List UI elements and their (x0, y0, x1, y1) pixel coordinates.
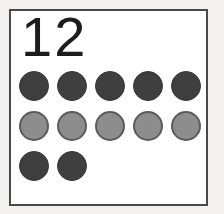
dot-circle (57, 151, 87, 181)
dot-circle (19, 71, 49, 101)
numeral-label: 12 (21, 9, 87, 65)
dot-circle (95, 111, 125, 141)
dot-circle (57, 71, 87, 101)
dot-circle (19, 151, 49, 181)
dot-circle (171, 111, 201, 141)
dot-row (19, 111, 205, 149)
dot-circle (133, 111, 163, 141)
dot-circle (19, 111, 49, 141)
dot-circle (95, 71, 125, 101)
dot-circle (57, 111, 87, 141)
counting-card: 12 (9, 9, 208, 206)
dot-row (19, 151, 205, 189)
dot-circle (133, 71, 163, 101)
dot-circle (171, 71, 201, 101)
dot-row (19, 71, 205, 109)
dot-grid (19, 71, 205, 191)
